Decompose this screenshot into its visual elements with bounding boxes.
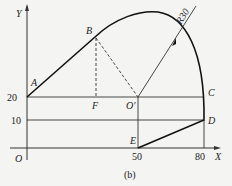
point-c-label: C <box>208 87 215 98</box>
tick-y-20: 20 <box>7 92 17 103</box>
point-b-label: B <box>86 25 92 36</box>
x-axis-label: X <box>214 151 222 162</box>
caption: (b) <box>124 169 136 181</box>
x-axis-arrow-icon <box>214 146 221 150</box>
y-axis-arrow-icon <box>25 4 29 11</box>
diagram: Y X O 20 10 50 80 A B C D E F O' R30 (b) <box>0 0 232 186</box>
dashed-b-oprime <box>96 38 138 97</box>
point-oprime-label: O' <box>126 100 136 111</box>
origin-label: O <box>15 153 22 164</box>
y-axis-label: Y <box>16 8 23 19</box>
tick-x-80: 80 <box>195 151 205 162</box>
tick-x-50: 50 <box>132 151 142 162</box>
point-d-label: D <box>207 115 216 126</box>
part-profile <box>27 12 204 148</box>
radius-label: R30 <box>173 7 191 27</box>
tick-y-10: 10 <box>11 115 21 126</box>
point-e-label: E <box>129 135 136 146</box>
point-f-label: F <box>91 100 99 111</box>
radius-line <box>138 6 196 97</box>
point-a-label: A <box>30 77 38 88</box>
